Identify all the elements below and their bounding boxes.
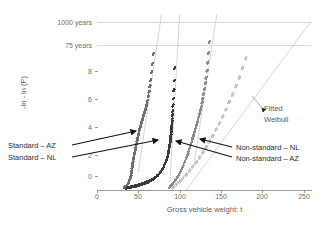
fitted-weibull-line — [186, 22, 310, 190]
annotation-fitted-line2: Weibull — [264, 114, 288, 125]
data-point — [151, 70, 154, 73]
data-point — [147, 99, 150, 102]
annotation-standard-az: Standard – AZ — [8, 141, 56, 150]
data-point — [182, 164, 185, 167]
data-point — [173, 88, 176, 91]
arrow-fitted-weibull — [252, 96, 262, 108]
data-point — [200, 105, 203, 108]
data-point — [152, 52, 155, 55]
data-point — [207, 60, 210, 63]
data-point — [172, 103, 175, 106]
data-point — [209, 40, 212, 43]
annotation-standard-nl: Standard – NL — [8, 153, 56, 162]
data-point — [186, 156, 189, 159]
data-point — [147, 94, 150, 97]
annotation-nonstandard-az: Non-standard – AZ — [236, 154, 299, 163]
data-point — [172, 113, 175, 116]
weibull-plot-figure: 1000 years 75 years 8 6 4 2 0 -ln - ln (… — [0, 0, 330, 225]
annotation-fitted-line1: Fitted — [264, 103, 288, 114]
data-point — [205, 76, 208, 79]
data-point — [152, 62, 155, 64]
data-point — [184, 160, 187, 163]
annotation-fitted-weibull: Fitted Weibull — [264, 103, 288, 125]
data-point — [148, 90, 151, 93]
data-point — [174, 78, 177, 81]
data-point — [150, 78, 153, 81]
data-point — [205, 81, 208, 84]
data-point — [174, 66, 177, 69]
data-point — [172, 109, 175, 112]
data-point — [201, 101, 204, 104]
annotation-nonstandard-nl: Non-standard – NL — [236, 143, 299, 152]
arrow-standard-az — [72, 131, 136, 145]
data-point — [171, 117, 174, 120]
data-point — [202, 96, 205, 99]
data-point — [203, 92, 206, 95]
data-point — [204, 87, 207, 90]
data-point — [173, 96, 176, 99]
data-point — [206, 69, 209, 72]
fitted-weibull-line — [138, 14, 161, 172]
data-point — [146, 103, 149, 106]
arrow-nonstandard-az — [176, 141, 232, 157]
data-point — [149, 84, 152, 87]
data-point — [208, 51, 211, 54]
arrow-nonstandard-nl — [200, 139, 232, 147]
data-point-layer — [123, 40, 248, 190]
